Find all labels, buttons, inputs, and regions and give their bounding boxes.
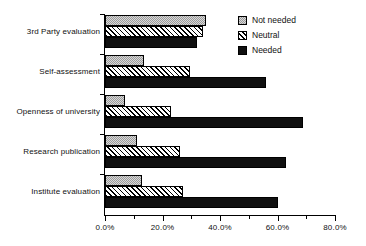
category-label-wrapper: Research publication (0, 147, 100, 157)
bar (105, 175, 142, 186)
legend-label-needed: Needed (252, 45, 282, 56)
x-axis-tick-label: 0.0% (95, 223, 114, 233)
bar (105, 15, 206, 26)
bar (105, 186, 183, 197)
x-axis-tick-label: 60.0% (266, 223, 290, 233)
legend-item-not-needed: Not needed (238, 14, 362, 28)
category-label: Institute evaluation (31, 187, 100, 197)
legend-swatch-needed-icon (238, 46, 247, 55)
bar (105, 26, 203, 37)
bar (105, 55, 144, 66)
category-label-wrapper: Institute evaluation (0, 187, 100, 197)
legend-label-neutral: Neutral (252, 30, 279, 41)
bar (105, 66, 190, 77)
category-label: Openness of university (16, 107, 100, 117)
bar (105, 106, 171, 117)
bar (105, 135, 137, 146)
category-label: Self-assessment (39, 67, 100, 77)
legend-label-not-needed: Not needed (252, 15, 296, 26)
bar (105, 95, 125, 106)
category-label-wrapper: Openness of university (0, 107, 100, 117)
bar-group (105, 95, 335, 128)
bar (105, 77, 266, 88)
category-label: Research publication (23, 147, 100, 157)
x-axis-tick-label: 40.0% (208, 223, 232, 233)
category-label-wrapper: 3rd Party evaluation (0, 27, 100, 37)
bar-group (105, 175, 335, 208)
legend-swatch-not-needed-icon (238, 16, 247, 25)
x-axis-tick (191, 216, 192, 219)
legend-swatch-neutral-icon (238, 31, 247, 40)
bar-group (105, 55, 335, 88)
bar (105, 37, 197, 48)
x-axis-tick (105, 216, 106, 221)
x-axis-tick (306, 216, 307, 219)
bar (105, 146, 180, 157)
category-label-wrapper: Self-assessment (0, 67, 100, 77)
x-axis-tick (278, 216, 279, 221)
bar-chart: 0.0%20.0%40.0%60.0%80.0% 3rd Party evalu… (0, 0, 366, 246)
x-axis-tick-label: 20.0% (151, 223, 175, 233)
x-axis-tick-label: 80.0% (323, 223, 347, 233)
bar-group (105, 135, 335, 168)
chart-legend: Not needed Neutral Needed (238, 14, 362, 59)
bar (105, 117, 303, 128)
x-axis-tick (249, 216, 250, 219)
bar (105, 157, 286, 168)
category-label: 3rd Party evaluation (27, 27, 100, 37)
legend-item-neutral: Neutral (238, 29, 362, 43)
bar (105, 197, 278, 208)
x-axis-tick (134, 216, 135, 219)
legend-item-needed: Needed (238, 44, 362, 58)
x-axis-tick (220, 216, 221, 221)
x-axis-tick (163, 216, 164, 221)
x-axis-tick (335, 216, 336, 221)
